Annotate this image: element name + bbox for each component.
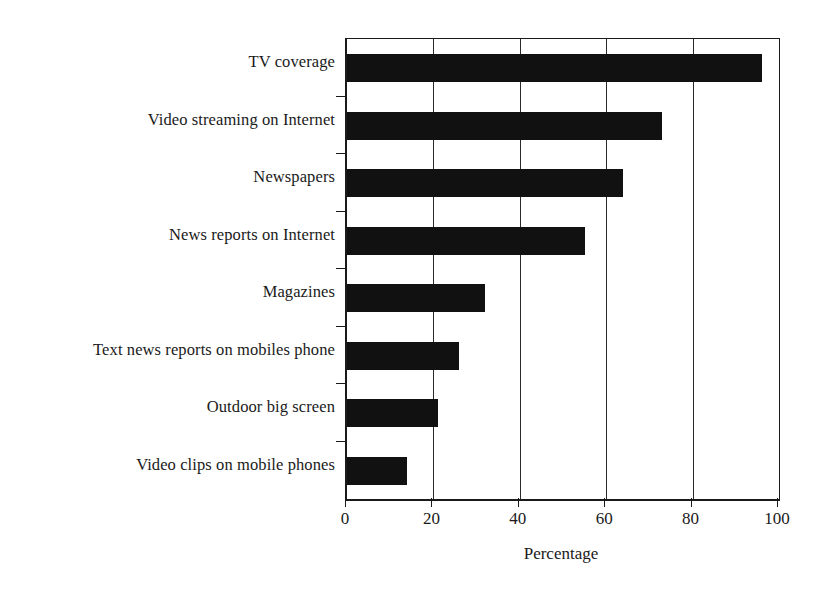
bar-band <box>347 442 779 500</box>
bar-tv-coverage <box>347 54 762 82</box>
x-axis-tick <box>431 498 432 507</box>
bar-news-reports-on-internet <box>347 227 585 255</box>
plot-area <box>345 38 780 501</box>
category-label-text-news-reports-on-mobiles-phone: Text news reports on mobiles phone <box>5 340 335 360</box>
y-axis-tick <box>336 96 345 97</box>
x-axis-tick <box>691 498 692 507</box>
x-tick-label-100: 100 <box>764 508 790 530</box>
bar-newspapers <box>347 169 623 197</box>
y-axis-tick <box>336 441 345 442</box>
bar-chart-figure: TV coverage Video streaming on Internet … <box>0 0 818 589</box>
bar-video-streaming-on-internet <box>347 112 662 140</box>
category-label-tv-coverage: TV coverage <box>5 52 335 72</box>
category-label-news-reports-on-internet: News reports on Internet <box>5 225 335 245</box>
bar-outdoor-big-screen <box>347 399 438 427</box>
category-label-magazines: Magazines <box>5 282 335 302</box>
x-tick-label-40: 40 <box>509 508 526 530</box>
x-axis-tick <box>604 498 605 507</box>
bar-band <box>347 97 779 155</box>
bar-magazines <box>347 284 485 312</box>
y-axis-tick <box>336 326 345 327</box>
bar-text-news-reports-on-mobiles-phone <box>347 342 459 370</box>
bar-video-clips-on-mobile-phones <box>347 457 407 485</box>
bar-band <box>347 212 779 270</box>
category-label-video-streaming-on-internet: Video streaming on Internet <box>5 110 335 130</box>
bar-band <box>347 384 779 442</box>
x-tick-label-60: 60 <box>596 508 613 530</box>
category-label-outdoor-big-screen: Outdoor big screen <box>5 397 335 417</box>
bar-band <box>347 327 779 385</box>
y-axis-tick <box>336 211 345 212</box>
category-axis-labels: TV coverage Video streaming on Internet … <box>0 38 335 498</box>
y-axis-tick <box>336 268 345 269</box>
y-axis-tick <box>336 383 345 384</box>
bar-band <box>347 39 779 97</box>
category-label-video-clips-on-mobile-phones: Video clips on mobile phones <box>5 455 335 475</box>
x-axis-title: Percentage <box>345 543 777 565</box>
y-axis-tick <box>336 153 345 154</box>
x-tick-label-20: 20 <box>423 508 440 530</box>
x-axis-tick <box>777 498 778 507</box>
x-axis-tick <box>345 498 346 507</box>
category-label-newspapers: Newspapers <box>5 167 335 187</box>
bar-band <box>347 269 779 327</box>
x-axis-tick <box>518 498 519 507</box>
bar-band <box>347 154 779 212</box>
x-tick-label-80: 80 <box>682 508 699 530</box>
x-tick-label-0: 0 <box>341 508 350 530</box>
